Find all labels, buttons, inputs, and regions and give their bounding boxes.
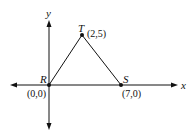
y-axis-down-arrow-icon bbox=[47, 123, 52, 130]
x-axis-left-arrow-icon bbox=[10, 83, 17, 88]
point-R-name: R bbox=[39, 73, 47, 85]
segment-TS bbox=[82, 35, 121, 85]
x-axis bbox=[10, 83, 178, 88]
diagram-canvas: y x R (0,0) T (2,5) S (7,0) bbox=[0, 0, 192, 133]
x-axis-right-arrow-icon bbox=[171, 83, 178, 88]
x-axis-label: x bbox=[180, 79, 186, 91]
point-T-name: T bbox=[78, 22, 85, 34]
triangle-RTS bbox=[49, 35, 121, 85]
coordinate-plane: y x R (0,0) T (2,5) S (7,0) bbox=[0, 0, 192, 133]
y-axis bbox=[47, 20, 52, 130]
point-S-coord: (7,0) bbox=[122, 88, 141, 100]
point-T-coord: (2,5) bbox=[87, 28, 106, 40]
segment-RT bbox=[49, 35, 82, 85]
point-R bbox=[47, 83, 51, 87]
y-axis-up-arrow-icon bbox=[47, 20, 52, 27]
point-S-name: S bbox=[123, 73, 129, 85]
point-R-coord: (0,0) bbox=[27, 88, 46, 100]
y-axis-label: y bbox=[45, 7, 51, 19]
